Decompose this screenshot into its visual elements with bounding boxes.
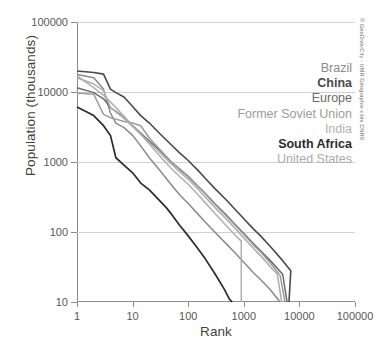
x-tick-mark	[133, 302, 134, 307]
y-tick-label: 1000	[44, 156, 68, 168]
x-tick-mark	[299, 302, 300, 307]
x-tick-label: 1	[74, 310, 80, 322]
y-tick-label: 10000	[37, 86, 68, 98]
x-tick-label: 10000	[284, 310, 315, 322]
y-tick-label: 10	[56, 296, 68, 308]
legend: BrazilChinaEuropeFormer Soviet UnionIndi…	[122, 61, 352, 167]
legend-item-europe: Europe	[122, 91, 352, 106]
x-tick-label: 100000	[337, 310, 374, 322]
chart-figure: Population (thousands) 10100100010000100…	[0, 0, 388, 356]
legend-item-united-states: United States	[122, 152, 352, 167]
legend-item-south-africa: South Africa	[122, 137, 352, 152]
x-tick-mark	[188, 302, 189, 307]
legend-item-india: India	[122, 122, 352, 137]
credit-text: © GeoDiverCity - UMR Géographie-cités CN…	[359, 18, 365, 188]
x-axis-title: Rank	[77, 324, 355, 339]
legend-item-former-soviet-union: Former Soviet Union	[122, 107, 352, 122]
x-tick-label: 10	[126, 310, 138, 322]
legend-item-brazil: Brazil	[122, 61, 352, 76]
x-tick-label: 100	[179, 310, 197, 322]
x-tick-label: 1000	[232, 310, 256, 322]
x-tick-mark	[244, 302, 245, 307]
y-axis-title: Population (thousands)	[23, 0, 38, 216]
y-tick-label: 100000	[31, 16, 68, 28]
y-tick-label: 100	[50, 226, 68, 238]
x-tick-mark	[77, 302, 78, 307]
x-tick-mark	[355, 302, 356, 307]
legend-item-china: China	[122, 76, 352, 91]
